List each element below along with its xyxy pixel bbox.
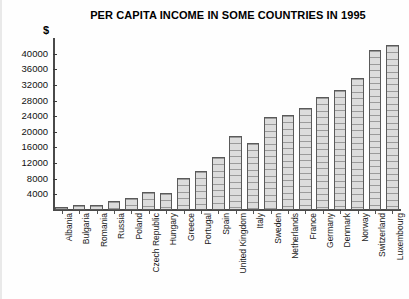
x-axis-tick-label: Luxembourg	[396, 213, 405, 260]
bar	[316, 97, 329, 210]
x-axis-tick-mark	[79, 211, 80, 214]
x-axis-tick-mark	[149, 211, 150, 214]
y-axis-tick-mark	[53, 69, 57, 70]
x-axis-tick-mark	[288, 211, 289, 214]
bar	[351, 78, 364, 210]
x-axis-tick-mark	[131, 211, 132, 214]
x-axis-tick-mark	[97, 211, 98, 214]
bar	[334, 90, 347, 210]
x-axis-tick-mark	[323, 211, 324, 214]
y-axis-tick-mark	[53, 116, 57, 117]
bar	[160, 193, 173, 210]
bar	[229, 136, 242, 210]
bar	[299, 108, 312, 210]
bar	[125, 198, 138, 210]
x-axis-tick-label: Hungary	[169, 213, 178, 245]
x-axis-labels: AlbaniaBulgariaRomaniaRussiaPolandCzech …	[53, 213, 401, 299]
y-axis-tick-label: 40000	[2, 49, 48, 59]
x-axis-tick-label: Norway	[361, 213, 370, 242]
y-axis-unit-label: $	[43, 24, 49, 36]
y-axis-tick-label: 32000	[2, 80, 48, 90]
x-axis-tick-mark	[305, 211, 306, 214]
bar	[264, 117, 277, 210]
bar	[212, 157, 225, 210]
x-axis-tick-label: Poland	[135, 213, 144, 239]
x-axis-tick-mark	[62, 211, 63, 214]
y-axis-tick-mark	[53, 54, 57, 55]
y-axis-tick-label: 16000	[2, 142, 48, 152]
x-axis-tick-mark	[340, 211, 341, 214]
y-axis-tick-mark	[53, 147, 57, 148]
x-axis-tick-mark	[375, 211, 376, 214]
bar-series	[53, 38, 401, 210]
chart-container: PER CAPITA INCOME IN SOME COUNTRIES IN 1…	[0, 0, 409, 299]
bar	[142, 192, 155, 210]
x-axis-tick-mark	[253, 211, 254, 214]
bar	[90, 205, 103, 210]
x-axis-tick-mark	[184, 211, 185, 214]
x-axis-tick-mark	[236, 211, 237, 214]
x-axis-tick-label: Albania	[65, 213, 74, 241]
bar	[195, 171, 208, 210]
bar	[108, 201, 121, 210]
bar	[55, 207, 68, 210]
bar	[177, 178, 190, 210]
x-axis-tick-label: United Kingdom	[239, 213, 248, 273]
x-axis-tick-mark	[166, 211, 167, 214]
y-axis-tick-label: 20000	[2, 127, 48, 137]
y-axis-tick-label: 8000	[2, 174, 48, 184]
x-axis-tick-label: Czech Republic	[152, 213, 161, 273]
x-axis-tick-mark	[201, 211, 202, 214]
x-axis-tick-label: Portugal	[204, 213, 213, 245]
x-axis-tick-label: Romania	[100, 213, 109, 247]
x-axis-tick-label: Bulgaria	[82, 213, 91, 244]
y-axis-tick-label: 4000	[2, 189, 48, 199]
x-axis-tick-mark	[392, 211, 393, 214]
x-axis-tick-mark	[218, 211, 219, 214]
x-axis-tick-label: Spain	[222, 213, 231, 235]
x-axis-tick-mark	[358, 211, 359, 214]
y-axis-tick-mark	[53, 179, 57, 180]
bar	[73, 205, 86, 210]
y-axis-tick-label: 12000	[2, 158, 48, 168]
x-axis-tick-label: Greece	[187, 213, 196, 241]
bar	[282, 115, 295, 210]
y-axis-tick-mark	[53, 101, 57, 102]
y-axis-tick-mark	[53, 194, 57, 195]
x-axis-tick-label: Netherlands	[291, 213, 300, 259]
y-axis-tick-mark	[53, 85, 57, 86]
y-axis-tick-label: 28000	[2, 96, 48, 106]
x-axis-tick-label: Germany	[326, 213, 335, 248]
x-axis-tick-label: Russia	[117, 213, 126, 239]
x-axis-tick-mark	[271, 211, 272, 214]
x-axis-tick-label: Switzerland	[378, 213, 387, 257]
chart-title: PER CAPITA INCOME IN SOME COUNTRIES IN 1…	[58, 9, 398, 21]
x-axis-tick-label: Denmark	[343, 213, 352, 247]
bar	[386, 45, 399, 210]
x-axis-tick-mark	[114, 211, 115, 214]
bar	[247, 143, 260, 210]
x-axis-tick-label: Italy	[256, 213, 265, 229]
y-axis-tick-mark	[53, 132, 57, 133]
y-axis-tick-label: 24000	[2, 111, 48, 121]
x-axis-tick-label: Sweden	[274, 213, 283, 244]
y-axis-tick-label: 36000	[2, 64, 48, 74]
x-axis-tick-label: France	[309, 213, 318, 239]
y-axis-tick-mark	[53, 163, 57, 164]
bar	[369, 50, 382, 210]
